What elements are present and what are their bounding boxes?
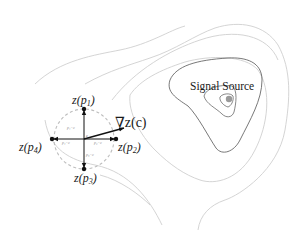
signal-source-dot <box>226 96 232 102</box>
point-p4 <box>50 137 54 141</box>
signal-source-label: Signal Source <box>190 80 254 93</box>
label-z-p1: z(p1) <box>71 93 95 108</box>
center-label: c <box>86 133 88 138</box>
signal-gradient-diagram: p₁−c p₂−c p₃−c p₄−c c z(p1) z(p2) z(p3) … <box>0 0 305 242</box>
contour-line <box>35 26 185 84</box>
contour-ring <box>169 58 262 152</box>
source-contours <box>169 58 262 152</box>
contour-line <box>100 175 150 205</box>
vector-label-p1: p₁−c <box>66 125 75 130</box>
gradient-label: ∇z(c) <box>115 115 147 131</box>
contour-line <box>45 120 162 225</box>
vector-label-p3: p₃−c <box>85 152 94 157</box>
neighbor-vectors <box>53 110 124 168</box>
label-z-p2: z(p2) <box>117 140 141 155</box>
vector-label-p4: p₄−c <box>61 140 70 145</box>
label-z-p3: z(p3) <box>73 171 97 186</box>
point-p1 <box>82 107 86 111</box>
vector-label-p2: p₂−c <box>93 140 102 145</box>
label-z-p4: z(p4) <box>18 140 42 155</box>
